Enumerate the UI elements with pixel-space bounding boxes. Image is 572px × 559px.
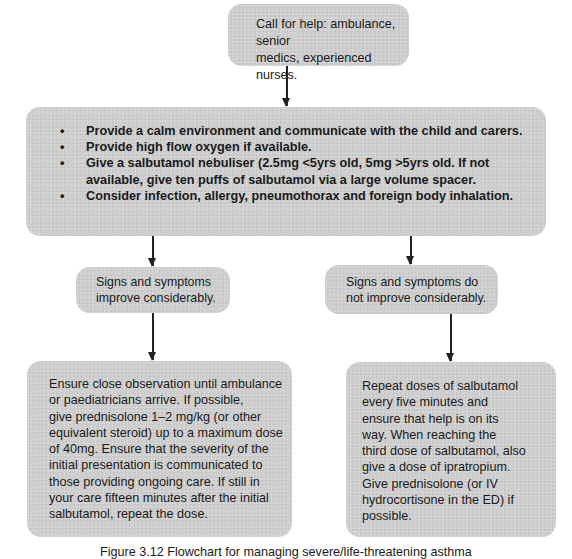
initial-action-item: Give a salbutamol nebuliser (2.5mg <5yrs… bbox=[86, 155, 532, 187]
no-improve-action-line: every five minutes and bbox=[362, 394, 550, 410]
improve-action-line: equivalent steroid) up to a maximum dose bbox=[49, 425, 286, 441]
arrow-actions-to-improve bbox=[152, 236, 154, 266]
improve-action-box: Ensure close observation until ambulance… bbox=[27, 361, 292, 537]
no-improve-action-line: give a dose of ipratropium. bbox=[362, 459, 550, 475]
improve-action-line: Ensure close observation until ambulance bbox=[49, 376, 286, 392]
improve-action-line: of 40mg. Ensure that the severity of the bbox=[49, 441, 286, 457]
call-for-help-line-2: medics, experienced nurses. bbox=[256, 50, 399, 84]
improve-action-line: initial presentation is communicated to bbox=[49, 457, 286, 473]
improve-action-line: salbutamol, repeat the dose. bbox=[49, 506, 286, 522]
arrow-actions-to-no-improve bbox=[410, 236, 412, 264]
improve-action-line: your care fifteen minutes after the init… bbox=[49, 490, 286, 506]
improve-action-line: those providing ongoing care. If still i… bbox=[49, 474, 286, 490]
no-improve-action-line: ensure that help is on its bbox=[362, 411, 550, 427]
arrow-improve-to-action bbox=[152, 313, 154, 360]
no-improve-action-line: third dose of salbutamol, also bbox=[362, 443, 550, 459]
initial-actions-box: Provide a calm environment and communica… bbox=[26, 107, 546, 236]
initial-actions-list: Provide a calm environment and communica… bbox=[86, 123, 532, 204]
initial-action-item: Consider infection, allergy, pneumothora… bbox=[86, 188, 532, 204]
no-improve-action-line: way. When reaching the bbox=[362, 427, 550, 443]
improve-condition-box: Signs and symptoms improve considerably. bbox=[76, 267, 230, 313]
figure-caption: Figure 3.12 Flowchart for managing sever… bbox=[100, 545, 500, 559]
initial-action-item: Provide a calm environment and communica… bbox=[86, 123, 532, 139]
improve-action-line: or paediatricians arrive. If possible, bbox=[49, 392, 286, 408]
no-improve-action-line: possible. bbox=[362, 508, 550, 524]
no-improve-condition-line-1: Signs and symptoms do bbox=[346, 274, 490, 290]
improve-condition-line-1: Signs and symptoms bbox=[96, 274, 222, 290]
improve-condition-line-2: improve considerably. bbox=[96, 290, 222, 306]
no-improve-condition-line-2: not improve considerably. bbox=[346, 290, 490, 306]
call-for-help-line-1: Call for help: ambulance, senior bbox=[256, 16, 399, 50]
initial-action-item: Provide high flow oxygen if available. bbox=[86, 139, 532, 155]
no-improve-condition-box: Signs and symptoms do not improve consid… bbox=[325, 265, 498, 314]
no-improve-action-box: Repeat doses of salbutamol every five mi… bbox=[346, 362, 556, 537]
no-improve-action-line: Repeat doses of salbutamol bbox=[362, 378, 550, 394]
no-improve-action-line: Give prednisolone (or IV bbox=[362, 476, 550, 492]
arrow-no-improve-to-action bbox=[450, 314, 452, 361]
improve-action-line: give prednisolone 1–2 mg/kg (or other bbox=[49, 409, 286, 425]
call-for-help-box: Call for help: ambulance, senior medics,… bbox=[228, 4, 409, 66]
no-improve-action-line: hydrocortisone in the ED) if bbox=[362, 492, 550, 508]
arrow-start-to-actions bbox=[286, 66, 288, 106]
